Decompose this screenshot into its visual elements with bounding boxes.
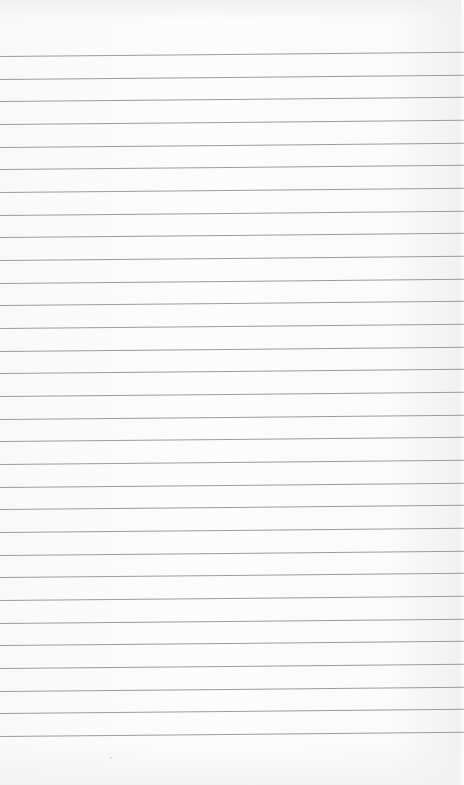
bottom-edge-shadow xyxy=(0,745,461,785)
ruled-line xyxy=(0,664,464,669)
ruled-line xyxy=(0,278,464,283)
ruled-line xyxy=(0,437,464,442)
ruled-line xyxy=(0,732,464,737)
ruled-line xyxy=(0,301,464,306)
ruled-line xyxy=(0,188,464,193)
ruled-line xyxy=(0,256,464,261)
top-edge-shadow xyxy=(0,0,461,20)
ruled-line xyxy=(0,346,464,351)
ruled-line xyxy=(0,97,464,102)
ruled-line xyxy=(0,573,464,578)
ruled-line xyxy=(0,414,464,419)
ruled-line xyxy=(0,619,464,624)
ruled-line xyxy=(0,460,464,465)
ruled-line xyxy=(0,120,464,125)
ruled-line xyxy=(0,369,464,374)
ruled-line xyxy=(0,596,464,601)
ruled-line xyxy=(0,528,464,533)
ruled-line xyxy=(0,482,464,487)
ruled-line xyxy=(0,641,464,646)
ruled-line xyxy=(0,52,464,57)
ruled-line xyxy=(0,142,464,147)
ruled-line xyxy=(0,233,464,238)
ruled-line xyxy=(0,392,464,397)
ruled-line xyxy=(0,210,464,215)
ruled-line xyxy=(0,709,464,714)
ruled-line xyxy=(0,687,464,692)
ruled-line xyxy=(0,74,464,79)
ruled-line xyxy=(0,550,464,555)
ruled-line xyxy=(0,324,464,329)
ruled-line xyxy=(0,505,464,510)
ruled-line xyxy=(0,165,464,170)
